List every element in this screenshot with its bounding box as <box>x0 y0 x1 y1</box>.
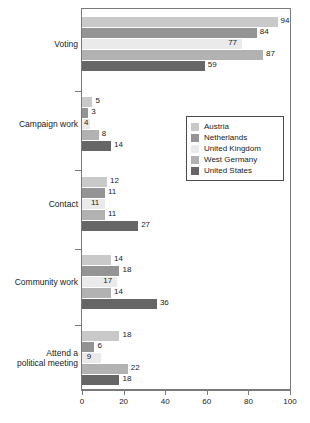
bar-row: 18 <box>82 266 290 276</box>
x-axis-tick-label: 0 <box>80 397 84 406</box>
bar-value-label: 17 <box>103 275 112 287</box>
legend-label: West Germany <box>204 154 257 165</box>
x-axis-line <box>81 390 291 391</box>
category-label: Contact <box>0 199 78 209</box>
category-label-line: Campaign work <box>0 119 78 129</box>
legend-swatch-icon <box>191 123 199 131</box>
bar-value-label: 77 <box>228 37 237 49</box>
category-label-line: Voting <box>0 39 78 49</box>
legend-label: Netherlands <box>204 132 247 143</box>
bar-group: 18692218 <box>82 331 290 386</box>
bar <box>82 39 242 49</box>
bar-row: 18 <box>82 375 290 385</box>
legend-swatch-icon <box>191 167 199 175</box>
bar-value-label: 14 <box>114 286 123 298</box>
category-label-line: Community work <box>0 277 78 287</box>
category-label: Attend apolitical meeting <box>0 348 78 368</box>
bar-value-label: 18 <box>122 264 131 276</box>
x-axis-tick <box>207 391 208 395</box>
bar-row: 36 <box>82 299 290 309</box>
legend: AustriaNetherlandsUnited KingdomWest Ger… <box>186 116 284 181</box>
bar-row: 14 <box>82 288 290 298</box>
bar-value-label: 84 <box>260 26 269 38</box>
bar <box>82 266 119 276</box>
bar <box>82 288 111 298</box>
bar-value-label: 87 <box>266 48 275 60</box>
bar <box>82 210 105 220</box>
bar-value-label: 4 <box>84 117 88 129</box>
bar <box>82 299 157 309</box>
bar-row: 27 <box>82 221 290 231</box>
bar-value-label: 59 <box>208 59 217 71</box>
legend-label: Austria <box>204 121 229 132</box>
legend-label: United States <box>204 165 252 176</box>
y-axis-tick <box>75 170 81 171</box>
x-axis-tick-label: 100 <box>283 397 296 406</box>
bar-value-label: 18 <box>122 329 131 341</box>
bar <box>82 50 263 60</box>
legend-item: United States <box>191 165 278 176</box>
bar-row: 9 <box>82 353 290 363</box>
bar-row: 84 <box>82 28 290 38</box>
bar-row: 87 <box>82 50 290 60</box>
legend-item: Austria <box>191 121 278 132</box>
bar-value-label: 11 <box>91 197 99 209</box>
bar-value-label: 5 <box>95 95 99 107</box>
legend-label: United Kingdom <box>204 143 261 154</box>
bar-value-label: 3 <box>91 106 95 118</box>
bar-group: 1211111127 <box>82 177 290 232</box>
bar-row: 14 <box>82 255 290 265</box>
category-label: Voting <box>0 39 78 49</box>
bar-value-label: 27 <box>141 219 150 231</box>
legend-item: West Germany <box>191 154 278 165</box>
bar-row: 6 <box>82 342 290 352</box>
bar-row: 22 <box>82 364 290 374</box>
bar-value-label: 11 <box>108 208 116 220</box>
plot-bars: 9484778759534814121111112714181714361869… <box>82 9 290 389</box>
category-label-line: Attend a <box>0 348 78 358</box>
category-label-line: political meeting <box>0 358 78 368</box>
bar-value-label: 6 <box>97 340 101 352</box>
x-axis-tick <box>165 391 166 395</box>
bar <box>82 130 99 140</box>
bar-row: 11 <box>82 188 290 198</box>
category-label: Community work <box>0 277 78 287</box>
legend-item: United Kingdom <box>191 143 278 154</box>
bar <box>82 255 111 265</box>
bar <box>82 364 128 374</box>
category-label: Campaign work <box>0 119 78 129</box>
bar <box>82 353 101 363</box>
bar <box>82 61 205 71</box>
bar <box>82 141 111 151</box>
bar-value-label: 9 <box>87 351 91 363</box>
category-label-line: Contact <box>0 199 78 209</box>
bar-row: 59 <box>82 61 290 71</box>
bar <box>82 221 138 231</box>
bar-value-label: 18 <box>122 373 131 385</box>
y-axis-tick <box>75 325 81 326</box>
x-axis-tick-label: 20 <box>119 397 128 406</box>
x-axis-tick-label: 40 <box>161 397 170 406</box>
y-axis-tick <box>75 249 81 250</box>
bar-row: 77 <box>82 39 290 49</box>
bar-value-label: 14 <box>114 139 123 151</box>
x-axis-tick <box>124 391 125 395</box>
legend-swatch-icon <box>191 134 199 142</box>
bar-chart: VotingCampaign workContactCommunity work… <box>0 0 310 423</box>
bar-value-label: 11 <box>108 186 116 198</box>
bar-row: 18 <box>82 331 290 341</box>
legend-swatch-icon <box>191 145 199 153</box>
x-axis-tick <box>248 391 249 395</box>
legend-swatch-icon <box>191 156 199 164</box>
bar-value-label: 22 <box>131 362 140 374</box>
bar-value-label: 94 <box>281 15 290 27</box>
bar-value-label: 8 <box>102 128 106 140</box>
x-axis-tick-label: 80 <box>244 397 253 406</box>
x-axis-tick-label: 60 <box>202 397 211 406</box>
bar-row: 5 <box>82 97 290 107</box>
bar-row: 11 <box>82 210 290 220</box>
bar-group: 1418171436 <box>82 255 290 310</box>
bar-group: 9484778759 <box>82 17 290 72</box>
bar <box>82 17 278 27</box>
bar <box>82 177 107 187</box>
